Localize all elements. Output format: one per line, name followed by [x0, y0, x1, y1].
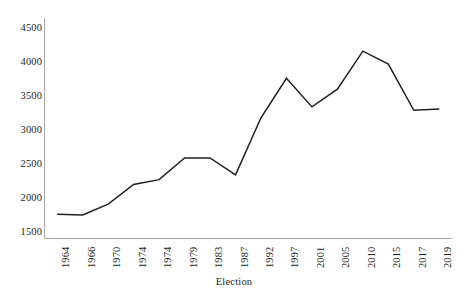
x-tick-label: 1966 [87, 247, 98, 268]
y-tick-label: 4000 [21, 57, 42, 68]
x-axis-title: Election [0, 276, 468, 287]
x-tick-label: 1964 [61, 247, 72, 268]
x-tick-label: 2017 [418, 247, 429, 268]
x-tick-label: 1979 [189, 247, 200, 268]
x-tick-label: 2010 [367, 247, 378, 268]
y-tick-label: 2500 [21, 159, 42, 170]
x-tick-label: 2001 [316, 247, 327, 268]
data-series-line [57, 51, 439, 215]
x-tick-label: 1997 [290, 247, 301, 268]
y-tick-label: 3500 [21, 91, 42, 102]
x-tick-label: 1970 [112, 247, 123, 268]
x-tick-label: 1992 [265, 247, 276, 268]
x-tick-label: 2015 [392, 247, 403, 268]
y-tick-label: 2000 [21, 193, 42, 204]
x-tick-label: 1983 [214, 247, 225, 268]
y-tick-label: 4500 [21, 23, 42, 34]
x-tick-label: 2019 [443, 247, 454, 268]
x-tick-label: 1987 [240, 247, 251, 268]
line-chart: 1500200025003000350040004500 19641966197… [0, 0, 468, 296]
y-tick-label: 3000 [21, 125, 42, 136]
x-tick-label: 2005 [341, 247, 352, 268]
x-tick-label: 1974 [138, 247, 149, 268]
y-tick-label: 1500 [21, 227, 42, 238]
x-tick-label: 1974 [163, 247, 174, 268]
